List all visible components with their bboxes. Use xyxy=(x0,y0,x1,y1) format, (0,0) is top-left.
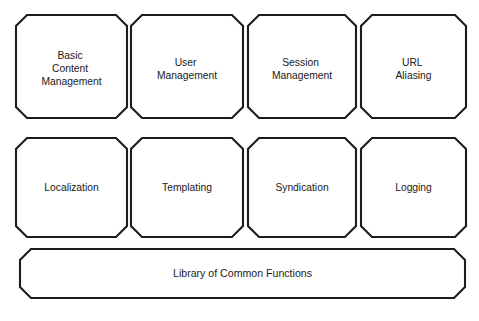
node-url-aliasing[interactable]: URL Aliasing xyxy=(361,15,466,118)
diagram-svg: Basic Content Management User Management… xyxy=(0,0,479,321)
node-templating-label: Templating xyxy=(162,181,212,192)
node-basic-content-management[interactable]: Basic Content Management xyxy=(16,15,127,118)
node-localization[interactable]: Localization xyxy=(16,138,127,237)
node-syndication-label: Syndication xyxy=(275,181,329,192)
node-syndication[interactable]: Syndication xyxy=(248,138,356,237)
node-localization-label: Localization xyxy=(44,181,99,192)
node-session-management[interactable]: Session Management xyxy=(248,15,356,118)
node-user-management[interactable]: User Management xyxy=(131,15,243,118)
node-logging[interactable]: Logging xyxy=(361,138,466,237)
node-library-of-common-functions-label: Library of Common Functions xyxy=(173,266,312,278)
diagram-row-modules-row-2: Localization Templating Syndication Logg… xyxy=(16,138,466,237)
diagram-row-modules-row-1: Basic Content Management User Management… xyxy=(16,15,466,118)
node-library-of-common-functions[interactable]: Library of Common Functions xyxy=(20,249,465,298)
node-templating[interactable]: Templating xyxy=(131,138,243,237)
diagram-canvas: Basic Content Management User Management… xyxy=(0,0,479,321)
node-logging-label: Logging xyxy=(395,181,432,192)
